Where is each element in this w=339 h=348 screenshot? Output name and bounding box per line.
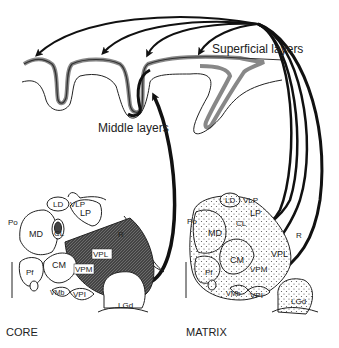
svg-text:VMb: VMb — [226, 290, 241, 297]
svg-text:VLP: VLP — [243, 196, 258, 205]
middle-layers-label: Middle layers — [98, 121, 169, 135]
svg-text:MD: MD — [208, 228, 222, 238]
svg-text:Pf: Pf — [26, 268, 34, 277]
svg-text:R: R — [296, 231, 302, 240]
svg-text:CL: CL — [236, 219, 247, 228]
svg-text:VPI: VPI — [73, 290, 86, 299]
svg-text:CL: CL — [54, 229, 65, 238]
svg-text:R: R — [118, 230, 124, 239]
svg-text:VPI: VPI — [250, 291, 263, 300]
svg-text:LD: LD — [225, 196, 235, 205]
svg-text:LGd: LGd — [118, 301, 133, 310]
svg-text:CM: CM — [230, 255, 244, 265]
svg-text:VMb: VMb — [50, 289, 65, 296]
thalamocortical-diagram: Superficial layers Middle layers LD VLP … — [0, 0, 339, 348]
svg-text:VPM: VPM — [250, 265, 268, 274]
svg-text:LD: LD — [53, 200, 63, 209]
svg-text:LP: LP — [80, 208, 91, 218]
svg-text:Po: Po — [8, 218, 18, 227]
superficial-layers-label: Superficial layers — [212, 42, 303, 56]
svg-text:LGd: LGd — [291, 297, 306, 306]
svg-text:CM: CM — [52, 260, 66, 270]
matrix-title: MATRIX — [186, 326, 227, 338]
svg-text:Pf: Pf — [205, 268, 213, 277]
svg-text:VPL: VPL — [93, 250, 109, 259]
svg-text:Po: Po — [187, 217, 197, 226]
svg-text:VPM: VPM — [75, 265, 93, 274]
svg-text:LP: LP — [250, 208, 261, 218]
svg-text:VPL: VPL — [271, 249, 288, 259]
core-title: CORE — [6, 326, 38, 338]
svg-text:MD: MD — [29, 229, 43, 239]
